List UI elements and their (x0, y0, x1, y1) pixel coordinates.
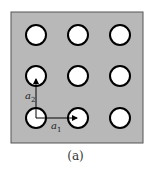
hole (110, 108, 130, 128)
hole (26, 25, 46, 45)
hole-row-1 (26, 25, 130, 45)
lattice-diagram: a2 a1 (0, 0, 151, 170)
hole (110, 66, 130, 86)
hole (110, 25, 130, 45)
figure-caption: (a) (0, 149, 151, 163)
hole-row-2 (26, 66, 130, 86)
hole (68, 25, 88, 45)
hole (68, 66, 88, 86)
